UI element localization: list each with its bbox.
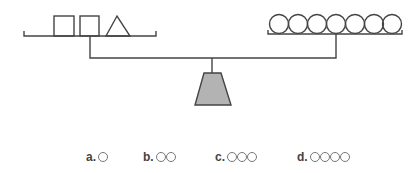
right-pan-circles [270,15,402,34]
fulcrum [195,73,231,105]
option-label: c. [215,150,225,164]
left-pan [24,31,156,36]
circle-icon [320,152,330,162]
circle-icon [166,152,176,162]
circle-icon [310,152,320,162]
circle-icon [330,152,340,162]
option-b[interactable]: b. [143,149,176,165]
circle-icon [340,152,350,162]
balance-scale-diagram [0,0,420,173]
option-c[interactable]: c. [215,149,257,165]
triangle-shape [106,16,130,36]
option-label: d. [297,150,308,164]
circle-icon [98,152,108,162]
circle-icon [247,152,257,162]
option-label: a. [86,150,96,164]
circle-icon [156,152,166,162]
option-a[interactable]: a. [86,149,108,165]
circle-icon [237,152,247,162]
option-label: b. [143,150,154,164]
circle-icon [227,152,237,162]
square-shape [80,16,99,36]
beam [90,34,336,58]
option-d[interactable]: d. [297,149,350,165]
square-shape [54,16,74,36]
